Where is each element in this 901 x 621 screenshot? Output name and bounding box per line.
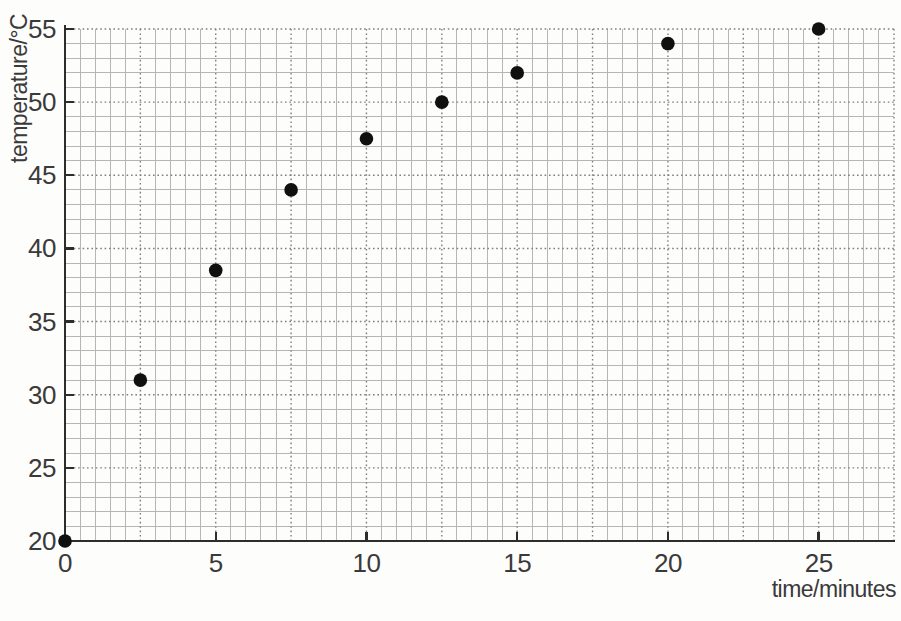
data-point — [360, 132, 374, 146]
y-tick-labels: 2025303540455055 — [28, 14, 56, 556]
y-tick-label: 25 — [28, 453, 56, 483]
data-point — [58, 534, 72, 548]
data-point — [812, 22, 826, 36]
major-grid — [65, 29, 894, 541]
y-tick-label: 55 — [28, 14, 56, 44]
scatter-chart: 0510152025 2025303540455055 time/minutes… — [0, 0, 901, 621]
x-tick-label: 20 — [654, 548, 682, 578]
x-tick-label: 15 — [503, 548, 531, 578]
data-point — [209, 264, 223, 278]
y-tick-label: 35 — [28, 307, 56, 337]
x-axis-label: time/minutes — [772, 576, 896, 602]
y-tick-label: 50 — [28, 87, 56, 117]
x-tick-label: 0 — [58, 548, 72, 578]
minor-grid — [65, 29, 894, 541]
data-point — [134, 373, 148, 387]
data-point — [435, 95, 449, 109]
y-tick-label: 45 — [28, 160, 56, 190]
x-tick-label: 5 — [209, 548, 223, 578]
y-axis-label: temperature/°C — [6, 14, 32, 163]
y-tick-label: 20 — [28, 526, 56, 556]
x-tick-label: 25 — [805, 548, 833, 578]
data-point — [661, 37, 675, 51]
x-tick-labels: 0510152025 — [58, 548, 833, 578]
data-point — [510, 66, 524, 80]
y-tick-label: 40 — [28, 233, 56, 263]
data-point — [284, 183, 298, 197]
y-tick-label: 30 — [28, 380, 56, 410]
scanned-graph-page: 0510152025 2025303540455055 time/minutes… — [0, 0, 901, 621]
x-tick-label: 10 — [352, 548, 380, 578]
